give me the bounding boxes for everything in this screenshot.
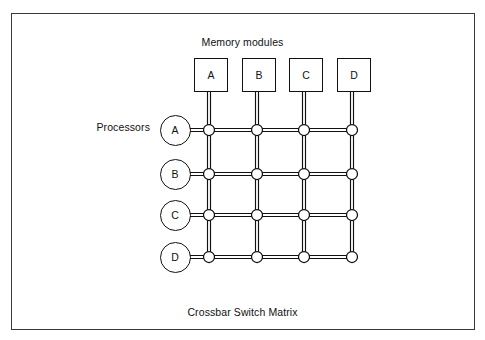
processor-node-d[interactable]: D (160, 242, 191, 273)
processor-node-a-label: A (171, 124, 178, 136)
processor-node-c-label: C (171, 209, 179, 221)
memory-module-b[interactable]: B (242, 58, 276, 92)
processor-node-d-label: D (171, 251, 179, 263)
memory-module-c[interactable]: C (289, 58, 323, 92)
memory-module-d-label: D (350, 69, 358, 81)
processor-node-a[interactable]: A (160, 115, 191, 146)
memory-module-a-label: A (207, 69, 214, 81)
processors-label: Processors (62, 121, 150, 133)
crossbar-caption: Crossbar Switch Matrix (0, 306, 485, 318)
processor-node-b-label: B (171, 168, 178, 180)
memory-module-b-label: B (255, 69, 262, 81)
memory-modules-title: Memory modules (0, 36, 485, 48)
memory-module-d[interactable]: D (337, 58, 371, 92)
processor-node-b[interactable]: B (160, 159, 191, 190)
memory-module-a[interactable]: A (194, 58, 228, 92)
crossbar-diagram: Memory modules Processors Crossbar Switc… (0, 0, 485, 340)
memory-module-c-label: C (302, 69, 310, 81)
processor-node-c[interactable]: C (160, 200, 191, 231)
